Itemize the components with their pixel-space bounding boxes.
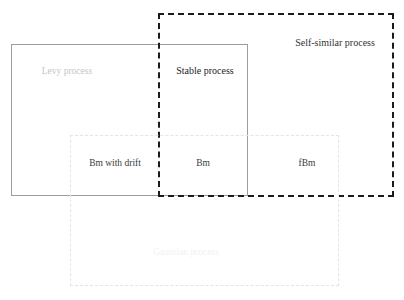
label-stable-process: Stable process (176, 66, 234, 76)
label-bm-with-drift: Bm with drift (89, 159, 141, 169)
diagram-canvas: Levy process Self-similar process Gaussi… (0, 0, 404, 300)
label-levy-process: Levy process (42, 67, 92, 77)
label-bm: Bm (196, 159, 210, 169)
label-self-similar-process: Self-similar process (295, 38, 375, 48)
label-fbm: fBm (299, 159, 316, 169)
label-gaussian-process: Gaussian process (153, 248, 219, 258)
